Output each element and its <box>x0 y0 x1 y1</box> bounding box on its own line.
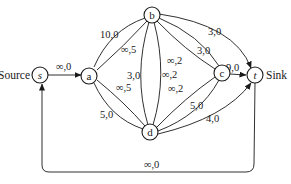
edges <box>42 14 255 172</box>
flow-network-diagram: ∞,0 10,0 ∞,5 3,0 ∞,5 5,0 ∞,2 ∞,2 ∞,2 3,0… <box>0 0 291 184</box>
node-s-label: s <box>38 69 42 81</box>
edge-c-t <box>230 74 246 75</box>
node-d-label: d <box>147 126 153 138</box>
label-a-d-inner: ∞,5 <box>116 82 131 93</box>
label-s-a: ∞,0 <box>56 61 71 72</box>
node-s: s <box>32 67 48 83</box>
label-a-b-outer: 10,0 <box>100 29 118 40</box>
label-c-d-outer: 5,0 <box>190 100 203 111</box>
label-a-b-inner: ∞,5 <box>121 44 136 55</box>
label-a-d-outer: 5,0 <box>100 109 113 120</box>
label-b-c-outer: 3,0 <box>197 45 210 56</box>
edge-b-d-left <box>141 22 149 125</box>
edge-a-b-outer <box>94 18 145 67</box>
label-d-t: 4,0 <box>206 113 219 124</box>
label-b-c-inner: ∞,2 <box>167 55 182 66</box>
sink-label: Sink <box>266 69 287 81</box>
edge-labels: ∞,0 10,0 ∞,5 3,0 ∞,5 5,0 ∞,2 ∞,2 ∞,2 3,0… <box>56 26 239 170</box>
source-label: Source <box>0 69 30 81</box>
node-b-label: b <box>149 9 155 21</box>
label-b-d-right: ∞,2 <box>162 69 177 80</box>
node-a-label: a <box>87 70 92 82</box>
edge-b-d-right <box>153 22 161 125</box>
label-b-d-left: 3,0 <box>127 70 140 81</box>
node-d: d <box>142 124 158 140</box>
label-c-d-inner: ∞,2 <box>168 83 183 94</box>
label-t-s: ∞,0 <box>144 159 159 170</box>
node-a: a <box>81 68 97 84</box>
node-b: b <box>144 7 160 23</box>
node-c-label: c <box>220 67 225 79</box>
label-b-t: 3,0 <box>208 26 221 37</box>
node-c: c <box>214 65 230 81</box>
node-t: t <box>247 67 263 83</box>
